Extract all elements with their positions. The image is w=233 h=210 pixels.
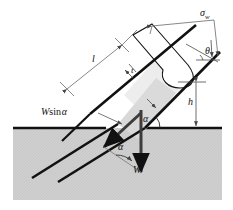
l-dimension (60, 30, 137, 96)
label-h: h (188, 97, 193, 107)
alpha-surface-arc (156, 117, 160, 128)
workpiece-body (13, 128, 222, 200)
label-w-sin-alpha: Wsin α (41, 107, 67, 117)
w-sin-alpha-leader (98, 113, 122, 124)
label-t: t (131, 66, 134, 75)
label-sigma-w: σw (200, 8, 209, 21)
label-alpha-surface: α (143, 114, 148, 124)
label-W: W (133, 165, 141, 175)
label-l: l (92, 54, 95, 64)
diagram-svg (0, 0, 233, 210)
label-theta: θ (205, 46, 210, 56)
figure-canvas: σw θ l t h Wsin α α α W (0, 0, 233, 210)
label-alpha-force: α (118, 142, 123, 152)
